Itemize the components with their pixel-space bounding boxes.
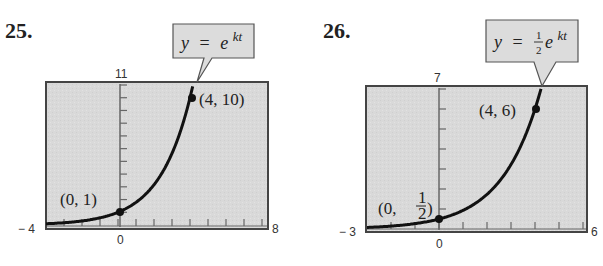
x-min-label-26: − 3: [339, 225, 356, 239]
problem-number-25: 25.: [5, 18, 33, 43]
problem-number-26: 26.: [323, 18, 351, 43]
point-4-6: [532, 105, 540, 113]
point-0-1: [116, 208, 124, 216]
equation-callout-26: y = 1 2 e kt: [486, 20, 578, 86]
point-label-4-10: (4, 10): [199, 90, 244, 109]
point-4-10: [188, 94, 196, 102]
point-label-0-1: (0, 1): [60, 190, 97, 209]
svg-text:2: 2: [418, 204, 427, 223]
x-max-label-25: 8: [272, 222, 279, 236]
eq-y-25: y: [179, 33, 189, 53]
eq-e-25: e: [220, 33, 228, 53]
point-0-half: [435, 215, 443, 223]
x-max-label-26: 6: [591, 225, 598, 239]
equation-callout-25: y = e kt: [173, 24, 254, 82]
eq-frac-num-26: 1: [536, 29, 542, 41]
svg-text:): ): [427, 199, 433, 218]
eq-exp-26: kt: [558, 28, 568, 43]
x-min-label-25: − 4: [18, 222, 35, 236]
plot-frame-26: [366, 86, 587, 232]
eq-equals-26: =: [513, 32, 523, 52]
y-max-label-26: 7: [434, 71, 441, 85]
x-zero-label-26: 0: [436, 237, 443, 251]
eq-e-26: e: [545, 32, 553, 52]
eq-exp-25: kt: [233, 29, 243, 44]
eq-frac-den-26: 2: [536, 44, 542, 56]
chart-26: 26. (0, 1 2 ) (4, 6) 7 − 3 0 6 y = 1: [323, 18, 598, 251]
chart-25: 25. (0, 1) (4, 10) 11 − 4 0 8 y = e kt: [5, 18, 279, 247]
svg-text:(0,: (0,: [378, 199, 396, 218]
eq-y-26: y: [492, 32, 502, 52]
x-zero-label-25: 0: [117, 233, 124, 247]
eq-equals-25: =: [200, 33, 210, 53]
y-max-label-25: 11: [115, 67, 128, 81]
point-label-4-6: (4, 6): [479, 101, 516, 120]
